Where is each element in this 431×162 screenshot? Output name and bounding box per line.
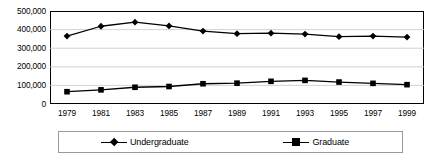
data-point-diamond [336,33,343,40]
series-graduate [64,78,410,95]
x-tick-label: 1993 [296,108,314,118]
data-point-diamond [132,19,139,26]
data-point-diamond [98,23,105,30]
x-tick-label: 1985 [160,108,178,118]
x-tick-label: 1989 [228,108,246,118]
data-point-diamond [234,30,241,37]
data-point-diamond [302,31,309,38]
data-point-diamond [200,28,207,35]
y-tick-label: 200,000 [0,62,46,70]
data-point-square [404,82,410,88]
y-tick-label: 100,000 [0,81,46,89]
y-axis: 500,000400,000300,000200,000100,0000 [0,0,46,162]
x-tick-label: 1981 [92,108,110,118]
data-point-square [166,84,172,90]
diamond-marker-icon [109,137,118,146]
x-tick-label: 1997 [364,108,382,118]
y-tick-label: 0 [0,100,46,108]
y-tick-label: 400,000 [0,25,46,33]
data-point-square [302,78,308,84]
data-point-diamond [166,22,173,29]
legend-key-undergraduate [101,137,127,148]
data-point-square [234,80,240,86]
chart-legend: Undergraduate Graduate [58,131,403,153]
square-marker-icon [292,138,300,146]
data-point-square [200,81,206,87]
x-tick-label: 1999 [398,108,416,118]
data-point-square [268,79,274,85]
legend-item-undergraduate[interactable]: Undergraduate [59,132,231,152]
legend-label-graduate: Graduate [312,137,349,147]
x-tick-label: 1979 [58,108,76,118]
data-point-square [64,89,70,95]
y-tick-label: 300,000 [0,44,46,52]
legend-key-graduate [283,137,309,148]
data-point-square [98,87,104,93]
x-tick-label: 1991 [262,108,280,118]
x-tick-label: 1995 [330,108,348,118]
data-point-square [336,79,342,85]
plot-series-layer [50,11,424,104]
x-axis: 1979198119831985198719891991199319951997… [0,108,431,122]
data-point-square [370,81,376,87]
y-tick-label: 500,000 [0,7,46,15]
data-point-diamond [404,34,411,41]
x-tick-label: 1983 [126,108,144,118]
data-point-diamond [268,30,275,37]
x-tick-label: 1987 [194,108,212,118]
data-point-diamond [64,33,71,40]
data-point-diamond [370,33,377,40]
line-chart: 500,000400,000300,000200,000100,0000 197… [0,0,431,162]
data-point-square [132,84,138,90]
legend-label-undergraduate: Undergraduate [130,137,189,147]
legend-item-graduate[interactable]: Graduate [231,132,403,152]
